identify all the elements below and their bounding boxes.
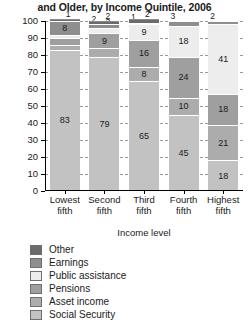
legend-label: Earnings [49, 258, 88, 268]
legend-swatch [30, 271, 42, 281]
x-axis-labels: LowestfifthSecondfifthThirdfifthFourthfi… [45, 194, 243, 224]
y-tick-label: 30 [27, 135, 38, 145]
y-axis: 1009080706050403020100 [0, 0, 45, 192]
legend-label: Pensions [49, 284, 90, 294]
legend-label: Public assistance [49, 271, 126, 281]
legend-item: Earnings [30, 256, 230, 269]
bar-segment-value: 3 [171, 12, 176, 21]
y-tick-label: 60 [27, 84, 38, 94]
y-tick-label: 40 [27, 118, 38, 128]
legend-item: Pensions [30, 282, 230, 295]
legend-swatch [30, 258, 42, 268]
x-tick-mark [223, 190, 224, 194]
legend-label: Social Security [49, 310, 115, 320]
y-tick-label: 20 [27, 152, 38, 162]
x-tick-label: Highestfifth [200, 194, 246, 216]
legend-swatch [30, 310, 42, 320]
y-tick-mark [41, 191, 45, 192]
legend: OtherEarningsPublic assistancePensionsAs… [30, 243, 230, 321]
y-tick-label: 70 [27, 67, 38, 77]
bar-segment-value: 2 [145, 10, 150, 19]
x-tick-mark [144, 190, 145, 194]
y-tick-label: 50 [27, 101, 38, 111]
legend-label: Other [49, 245, 74, 255]
legend-item: Public assistance [30, 269, 230, 282]
bar-segment-value: 2 [210, 12, 215, 21]
y-tick-label: 0 [33, 186, 38, 196]
x-tick-mark [65, 190, 66, 194]
chart-root: and Older, by Income Quintile, 2006 1009… [0, 0, 249, 326]
legend-item: Social Security [30, 308, 230, 321]
legend-swatch [30, 284, 42, 294]
legend-swatch [30, 245, 42, 255]
bar-segment-value: 2 [105, 12, 110, 21]
y-tick-label: 10 [27, 169, 38, 179]
y-tick-label: 100 [22, 16, 38, 26]
legend-swatch [30, 297, 42, 307]
x-tick-mark [104, 190, 105, 194]
x-tick-mark [184, 190, 185, 194]
y-tick-label: 90 [27, 33, 38, 43]
bar-segment-value: 1 [66, 10, 71, 19]
legend-item: Asset income [30, 295, 230, 308]
y-tick-label: 80 [27, 50, 38, 60]
plot-frame [45, 21, 243, 191]
legend-label: Asset income [49, 297, 109, 307]
x-axis-title: Income level [45, 227, 243, 238]
plot-area: 8334281795932265816912451024183182118412 [45, 21, 243, 191]
legend-item: Other [30, 243, 230, 256]
